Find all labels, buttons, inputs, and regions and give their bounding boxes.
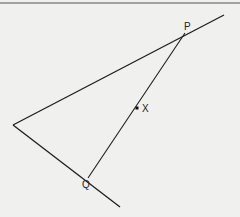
label-p: P [184, 22, 191, 32]
segment-pq [88, 33, 185, 178]
label-q: Q [82, 180, 90, 190]
lower-ray [13, 125, 120, 207]
diagram-canvas [0, 0, 240, 217]
geometry-diagram: P X Q [0, 0, 240, 217]
label-x: X [142, 104, 149, 114]
point-x-marker [136, 107, 139, 110]
upper-ray [13, 15, 224, 125]
